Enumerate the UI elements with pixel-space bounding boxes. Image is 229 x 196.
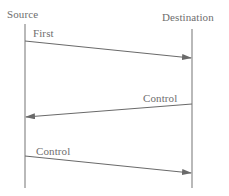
message-label-first: First <box>33 28 54 39</box>
sequence-diagram: Source Destination First Control Control <box>0 0 229 196</box>
message-arrow-first <box>25 41 191 58</box>
message-arrow-control-forward <box>25 156 191 173</box>
destination-label: Destination <box>162 12 214 23</box>
source-label: Source <box>7 9 38 20</box>
message-label-control-back: Control <box>143 93 177 104</box>
message-label-control-forward: Control <box>36 146 70 157</box>
message-arrow-control-back <box>26 104 192 117</box>
